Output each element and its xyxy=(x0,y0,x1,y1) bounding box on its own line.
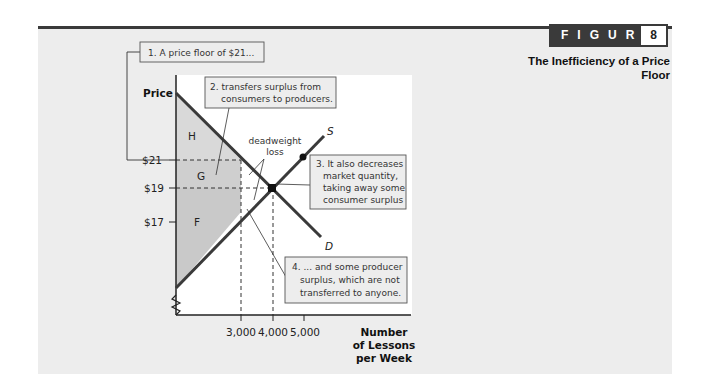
callout4-text-2: surplus, which are not xyxy=(300,275,400,285)
callout2-text-1: 2. transfers surplus from xyxy=(210,82,321,92)
x-tick-5000: 5,000 xyxy=(290,326,320,338)
callout1-bracket xyxy=(127,52,169,160)
supply-point xyxy=(300,154,307,161)
area-g xyxy=(176,160,241,188)
x-axis-title-1: Number xyxy=(360,326,408,338)
x-tick-4000: 4,000 xyxy=(258,326,288,338)
area-f-label: F xyxy=(194,216,200,228)
dwl-label-1: deadweight xyxy=(249,136,302,146)
supply-label: S xyxy=(327,125,334,137)
demand-label: D xyxy=(325,240,333,252)
callout4-text-3: transferred to anyone. xyxy=(300,288,401,298)
dwl-label-2: loss xyxy=(266,147,284,157)
area-g-label: G xyxy=(197,170,205,182)
x-tick-3000: 3,000 xyxy=(226,326,256,338)
callout3-text-3: taking away some xyxy=(323,183,406,193)
callout1-text: 1. A price floor of $21... xyxy=(148,48,254,58)
area-h-label: H xyxy=(188,130,196,142)
callout4-text-1: 4. ... and some producer xyxy=(292,262,403,272)
callout2-text-2: consumers to producers. xyxy=(221,94,333,104)
callout3-text-1: 3. It also decreases xyxy=(316,159,404,169)
y-tick-17: $17 xyxy=(144,216,164,228)
callout3-text-2: market quantity, xyxy=(323,171,398,181)
callout3-text-4: consumer surplus xyxy=(323,195,403,205)
x-axis-title-2: of Lessons xyxy=(353,339,416,351)
y-tick-19: $19 xyxy=(144,182,164,194)
equilibrium-point xyxy=(268,184,276,192)
x-axis-title-3: per Week xyxy=(356,352,413,364)
y-axis-title: Price xyxy=(143,87,173,99)
price-floor-chart: S D H G F Price $21 $19 $17 3,000 4,000 … xyxy=(0,0,707,391)
